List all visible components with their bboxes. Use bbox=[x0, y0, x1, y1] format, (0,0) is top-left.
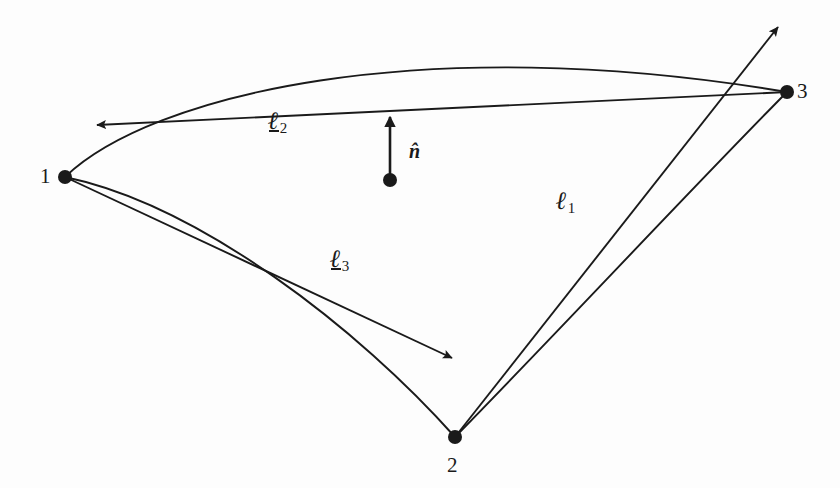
ell-glyph-3: ℓ bbox=[330, 246, 341, 271]
curved-edges bbox=[65, 67, 787, 437]
unit-normal-vector bbox=[383, 117, 397, 187]
vector-label-ell-1: ℓ1 bbox=[556, 188, 575, 216]
vertex-label-3: 3 bbox=[797, 81, 808, 102]
vector-ell-2-arrow bbox=[97, 92, 787, 125]
vector-label-ell-2: ℓ2 bbox=[268, 108, 287, 136]
vector-ell-1-arrow bbox=[455, 27, 778, 437]
vertex-label-1: 1 bbox=[40, 166, 51, 187]
vector-ell-3-arrow bbox=[65, 177, 452, 358]
edge-vectors bbox=[65, 27, 787, 437]
ell-glyph-1: ℓ bbox=[556, 188, 567, 213]
ell-subscript-2: 2 bbox=[280, 120, 288, 136]
vertex-dot-1 bbox=[58, 170, 72, 184]
ell-glyph-2: ℓ bbox=[268, 108, 279, 133]
curve-edge-2-3 bbox=[455, 92, 787, 437]
normal-vector-label: n̂ bbox=[409, 141, 420, 161]
diagram-svg bbox=[0, 0, 840, 488]
ell-subscript-3: 3 bbox=[342, 258, 350, 274]
ell-subscript-1: 1 bbox=[568, 200, 576, 216]
vertex-label-2: 2 bbox=[447, 455, 458, 476]
vertex-dot-3 bbox=[780, 85, 794, 99]
vector-label-ell-3: ℓ3 bbox=[330, 246, 349, 274]
figure-canvas: 1 2 3 ℓ1 ℓ2 ℓ3 n̂ bbox=[0, 0, 840, 488]
normal-base-dot bbox=[383, 173, 397, 187]
vertex-dots bbox=[58, 85, 794, 444]
curve-edge-1-2 bbox=[65, 177, 455, 437]
vertex-dot-2 bbox=[448, 430, 462, 444]
